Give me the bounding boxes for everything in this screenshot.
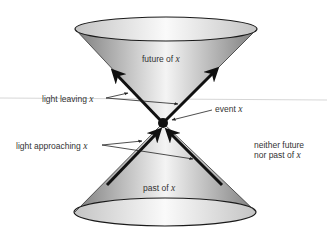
- future-label-var: x: [176, 54, 180, 64]
- event-point: [158, 118, 168, 128]
- light-cone-diagram: [0, 0, 327, 241]
- past-label-var: x: [171, 183, 175, 193]
- past-label: past of x: [143, 183, 175, 193]
- light-leaving-label: light leaving x: [42, 94, 93, 104]
- past-label-text: past of: [143, 183, 169, 193]
- neither-line-1: neither future: [254, 140, 304, 150]
- light-approaching-text: light approaching: [16, 141, 81, 151]
- future-label-text: future of: [142, 54, 173, 64]
- light-approaching-label: light approaching x: [16, 141, 87, 151]
- past-cone: [74, 123, 256, 226]
- neither-label: neither future nor past of x: [254, 140, 304, 160]
- event-label: event x: [215, 104, 242, 114]
- future-label: future of x: [142, 54, 180, 64]
- light-approaching-var: x: [83, 141, 87, 151]
- light-leaving-var: x: [89, 94, 93, 104]
- event-label-var: x: [238, 104, 242, 114]
- neither-line-2-text: nor past of: [254, 150, 294, 160]
- event-label-text: event: [215, 104, 236, 114]
- neither-line-2: nor past of x: [254, 150, 304, 160]
- neither-line-2-var: x: [297, 150, 301, 160]
- light-leaving-text: light leaving: [42, 94, 87, 104]
